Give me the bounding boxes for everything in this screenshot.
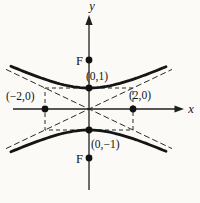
point-right-dot: [130, 106, 137, 113]
focus-bottom-label: F: [76, 152, 83, 166]
hyperbola-figure: y x F F (0,1) (0,−1) (−2,0) (2,0): [0, 0, 200, 203]
hyperbola-diagram: y x F F (0,1) (0,−1) (−2,0) (2,0): [0, 0, 200, 203]
focus-top-dot: [86, 57, 93, 64]
focus-bottom-dot: [86, 155, 93, 162]
x-axis-label: x: [187, 102, 194, 116]
x-axis-arrowhead: [175, 105, 185, 112]
y-axis-arrowhead: [85, 15, 92, 25]
point-right-label: (2,0): [129, 89, 151, 102]
vertex-bottom-dot: [86, 127, 93, 134]
y-axis-label: y: [87, 0, 95, 13]
point-left-label: (−2,0): [6, 90, 35, 103]
point-left-dot: [42, 106, 49, 113]
vertex-top-dot: [86, 85, 93, 92]
vertex-bottom-label: (0,−1): [91, 138, 120, 151]
vertex-top-label: (0,1): [86, 70, 108, 83]
focus-top-label: F: [76, 54, 83, 68]
